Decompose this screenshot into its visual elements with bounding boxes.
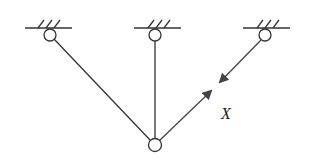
bottom-force-arrow xyxy=(159,91,211,141)
middle-hinge xyxy=(149,29,161,41)
bottom-joint xyxy=(149,139,162,152)
middle-support xyxy=(134,20,181,28)
right-force-arrow xyxy=(220,40,261,82)
right-hinge xyxy=(259,29,271,41)
force-label-x: X xyxy=(220,105,232,122)
left-support xyxy=(25,20,72,28)
truss-diagram: X xyxy=(0,0,310,160)
left-hinge xyxy=(44,29,56,41)
right-support xyxy=(243,20,290,28)
left-bar xyxy=(54,39,151,141)
